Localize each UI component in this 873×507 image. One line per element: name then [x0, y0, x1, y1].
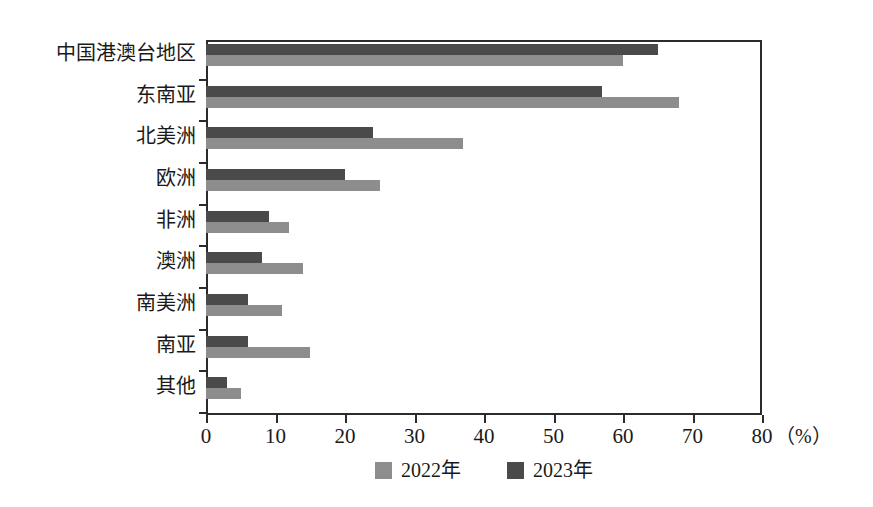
bar-2022 [206, 97, 679, 108]
x-axis-tick-label: 0 [201, 423, 212, 449]
legend-label: 2023年 [533, 459, 593, 481]
bar-group [206, 373, 762, 415]
y-axis-tick [199, 329, 206, 331]
y-axis-label: 非洲 [156, 209, 196, 231]
legend-item: 2023年 [507, 459, 593, 481]
x-axis-tick-label: 30 [404, 423, 425, 449]
legend-swatch-icon [507, 462, 524, 479]
bar-2023 [206, 169, 345, 180]
y-axis-tick [199, 162, 206, 164]
y-axis-label: 澳洲 [156, 250, 196, 272]
x-axis-tick [762, 415, 764, 423]
bar-group [206, 332, 762, 374]
bar-group [206, 82, 762, 124]
bar-2023 [206, 252, 262, 263]
plot-area [206, 40, 762, 415]
grouped-bar-chart: 中国港澳台地区东南亚北美洲欧洲非洲澳洲南美洲南亚其他 0102030405060… [0, 0, 873, 507]
legend-item: 2022年 [375, 459, 461, 481]
y-axis-tick [199, 412, 206, 414]
y-axis-label: 南美洲 [136, 292, 196, 314]
x-axis-tick-label: 60 [613, 423, 634, 449]
bar-2022 [206, 55, 623, 66]
bar-group [206, 123, 762, 165]
bar-2022 [206, 180, 380, 191]
bar-2023 [206, 44, 658, 55]
x-axis-tick [345, 415, 347, 423]
bar-group [206, 207, 762, 249]
y-axis-tick [199, 370, 206, 372]
x-axis-tick-label: 50 [543, 423, 564, 449]
x-axis-tick [415, 415, 417, 423]
x-axis-tick [206, 415, 208, 423]
bar-2023 [206, 294, 248, 305]
x-axis-tick [484, 415, 486, 423]
y-axis-label: 其他 [156, 375, 196, 397]
x-axis-unit-label: （%） [775, 423, 832, 449]
x-axis-tick-label: 10 [265, 423, 286, 449]
bar-group [206, 165, 762, 207]
y-axis-tick [199, 287, 206, 289]
legend-swatch-icon [375, 462, 392, 479]
bar-2023 [206, 211, 269, 222]
bar-2023 [206, 336, 248, 347]
y-axis-label: 东南亚 [136, 84, 196, 106]
y-axis-label: 欧洲 [156, 167, 196, 189]
y-axis-label: 南亚 [156, 334, 196, 356]
y-axis-tick [199, 245, 206, 247]
bar-group [206, 40, 762, 82]
bar-2023 [206, 86, 602, 97]
y-axis-tick [199, 204, 206, 206]
y-axis-tick [199, 120, 206, 122]
x-axis-tick-label: 40 [474, 423, 495, 449]
bar-2022 [206, 263, 303, 274]
x-axis-tick-label: 80 [752, 423, 773, 449]
x-axis-tick-labels: 01020304050607080 [0, 423, 873, 453]
x-axis-tick [693, 415, 695, 423]
y-axis-tick [199, 79, 206, 81]
legend-label: 2022年 [401, 459, 461, 481]
bar-2022 [206, 138, 463, 149]
bar-2022 [206, 347, 310, 358]
x-axis-tick [623, 415, 625, 423]
bar-2023 [206, 377, 227, 388]
x-axis-tick-label: 70 [682, 423, 703, 449]
chart-legend: 2022年2023年 [206, 455, 762, 485]
x-axis-tick [276, 415, 278, 423]
bar-2022 [206, 388, 241, 399]
x-axis-tick [554, 415, 556, 423]
bar-2022 [206, 222, 289, 233]
bar-group [206, 290, 762, 332]
x-axis-tick-label: 20 [335, 423, 356, 449]
bar-group [206, 248, 762, 290]
bar-2022 [206, 305, 282, 316]
y-axis-label: 北美洲 [136, 125, 196, 147]
bar-2023 [206, 127, 373, 138]
y-axis-labels: 中国港澳台地区东南亚北美洲欧洲非洲澳洲南美洲南亚其他 [0, 40, 200, 415]
y-axis-label: 中国港澳台地区 [56, 42, 196, 64]
